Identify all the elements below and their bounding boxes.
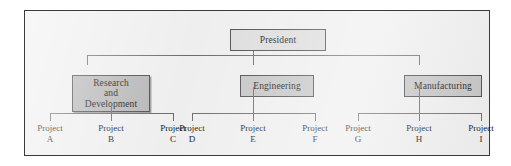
leaf-project-d[interactable]: Project D xyxy=(170,123,214,144)
leaf-project-e[interactable]: Project E xyxy=(231,123,275,144)
connector-rd-to-project-a xyxy=(50,113,51,121)
connector-bus-to-manufacturing xyxy=(419,55,420,65)
connector-bus-to-engineering xyxy=(253,55,254,65)
leaf-project-i-name: Project xyxy=(459,123,503,134)
leaf-project-b-code: B xyxy=(89,134,133,145)
leaf-project-b-name: Project xyxy=(89,123,133,134)
connector-rd-to-project-b xyxy=(111,113,112,121)
rd-label-line-2: and xyxy=(85,88,137,99)
connector-manufacturing-to-project-h xyxy=(419,113,420,121)
node-engineering[interactable]: Engineering xyxy=(240,75,314,97)
leaf-project-h-code: H xyxy=(397,134,441,145)
leaf-project-e-name: Project xyxy=(231,123,275,134)
leaf-project-f-name: Project xyxy=(293,123,337,134)
connector-engineering-to-project-f xyxy=(315,113,316,121)
org-chart-figure: Research and Development Engineering Man… xyxy=(0,0,511,166)
leaf-project-i[interactable]: Project I xyxy=(459,123,503,144)
leaf-project-g-code: G xyxy=(336,134,380,145)
leaf-project-e-code: E xyxy=(231,134,275,145)
node-president[interactable]: President xyxy=(230,29,326,51)
connector-engineering-stem xyxy=(253,87,254,113)
leaf-project-b[interactable]: Project B xyxy=(89,123,133,144)
node-label-manufacturing: Manufacturing xyxy=(414,81,472,92)
connector-rd-stem xyxy=(111,102,112,113)
leaf-project-g[interactable]: Project G xyxy=(336,123,380,144)
node-manufacturing[interactable]: Manufacturing xyxy=(404,75,482,97)
connector-bus-to-rd xyxy=(87,55,88,65)
leaf-project-d-name: Project xyxy=(170,123,214,134)
leaf-project-h-name: Project xyxy=(397,123,441,134)
connector-rd-to-project-c xyxy=(173,113,174,121)
connector-engineering-to-project-d xyxy=(192,113,193,121)
leaf-project-d-code: D xyxy=(170,134,214,145)
leaf-project-g-name: Project xyxy=(336,123,380,134)
leaf-project-a-code: A xyxy=(28,134,72,145)
leaf-project-a-name: Project xyxy=(28,123,72,134)
connector-engineering-to-project-e xyxy=(253,113,254,121)
leaf-project-a[interactable]: Project A xyxy=(28,123,72,144)
connector-manufacturing-to-project-i xyxy=(481,113,482,121)
connector-manufacturing-stem xyxy=(419,87,420,113)
leaf-project-f-code: F xyxy=(293,134,337,145)
rd-label-line-1: Research xyxy=(85,78,137,89)
node-label-engineering: Engineering xyxy=(253,81,301,92)
leaf-project-f[interactable]: Project F xyxy=(293,123,337,144)
leaf-project-h[interactable]: Project H xyxy=(397,123,441,144)
leaf-project-i-code: I xyxy=(459,134,503,145)
connector-manufacturing-to-project-g xyxy=(358,113,359,121)
chart-frame: Research and Development Engineering Man… xyxy=(24,10,490,156)
node-label-president: President xyxy=(260,35,296,46)
